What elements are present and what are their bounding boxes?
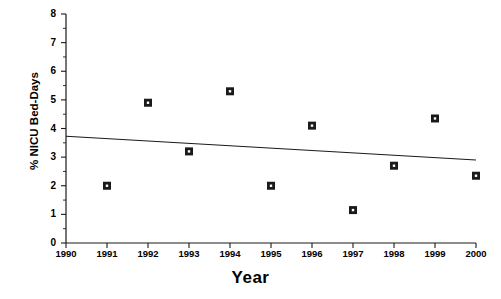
data-point-marker-center	[311, 124, 313, 126]
chart-container: % NICU Bed-Days Year 012345678 199019911…	[0, 0, 501, 299]
plot-area	[0, 0, 501, 299]
trend-line	[66, 136, 476, 160]
data-point-marker-center	[393, 165, 395, 167]
data-point-marker-center	[106, 185, 108, 187]
data-point-marker-center	[229, 90, 231, 92]
tick-marks-group	[61, 14, 476, 248]
axes-group	[66, 14, 476, 243]
data-point-marker-center	[434, 117, 436, 119]
data-point-marker-center	[270, 185, 272, 187]
data-point-group	[103, 87, 480, 214]
data-point-marker-center	[475, 175, 477, 177]
data-point-marker-center	[352, 209, 354, 211]
regression-line	[66, 136, 476, 160]
data-point-marker-center	[147, 102, 149, 104]
data-point-marker-center	[188, 150, 190, 152]
